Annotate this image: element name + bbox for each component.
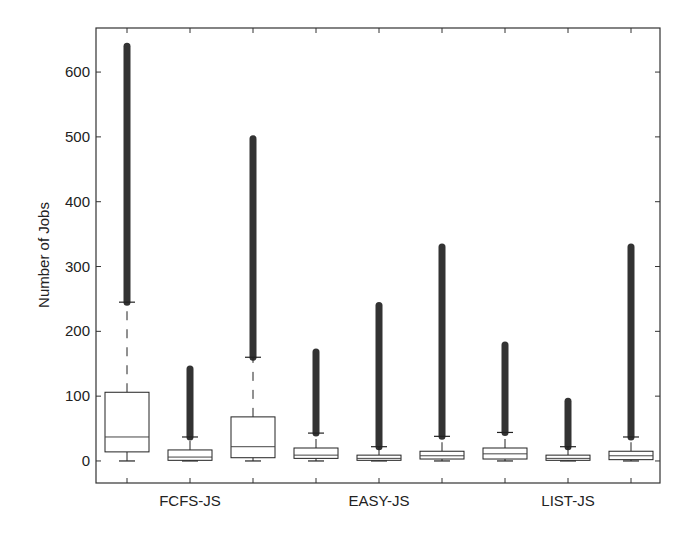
box-easy-js-1	[294, 352, 338, 461]
iqr-box	[231, 417, 275, 458]
box-fcfs-js-3	[231, 139, 275, 461]
box-easy-js-2	[357, 305, 401, 461]
box-list-js-1	[483, 345, 527, 461]
y-axis-label: Number of Jobs	[35, 202, 52, 308]
x-group-label: LIST-JS	[541, 492, 594, 509]
y-tick-label: 600	[65, 63, 90, 80]
box-list-js-3	[609, 247, 653, 461]
iqr-box	[105, 392, 149, 452]
box-list-js-2	[546, 401, 590, 461]
y-tick-label: 500	[65, 128, 90, 145]
iqr-box	[168, 450, 212, 460]
box-easy-js-3	[420, 247, 464, 461]
iqr-box	[294, 448, 338, 458]
y-tick-label: 0	[82, 452, 90, 469]
y-tick-label: 100	[65, 387, 90, 404]
y-tick-label: 300	[65, 258, 90, 275]
box-fcfs-js-2	[168, 369, 212, 461]
x-group-label: FCFS-JS	[159, 492, 221, 509]
iqr-box	[357, 455, 401, 460]
iqr-box	[546, 455, 590, 460]
x-group-label: EASY-JS	[348, 492, 409, 509]
box-fcfs-js-1	[105, 46, 149, 461]
iqr-box	[420, 451, 464, 459]
y-tick-label: 200	[65, 322, 90, 339]
box-plot-chart: 0100200300400500600 FCFS-JSEASY-JSLIST-J…	[0, 0, 688, 538]
plot-area	[105, 46, 653, 461]
y-tick-label: 400	[65, 193, 90, 210]
